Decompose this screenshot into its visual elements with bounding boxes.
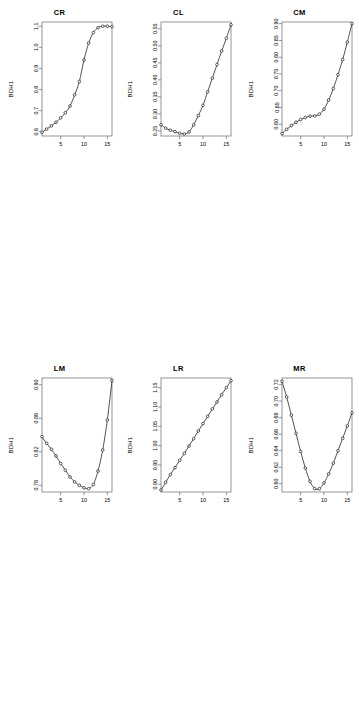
svg-text:0.60: 0.60: [274, 478, 280, 489]
svg-text:10: 10: [321, 497, 327, 503]
svg-text:0.35: 0.35: [153, 92, 159, 103]
svg-text:1.05: 1.05: [153, 421, 159, 432]
svg-text:0.75: 0.75: [274, 69, 280, 80]
plot-panel-r1c2: CL BDH1 0.250.300.350.400.450.500.555101…: [119, 0, 238, 178]
svg-text:0.66: 0.66: [274, 429, 280, 440]
svg-text:0.90: 0.90: [274, 18, 280, 29]
plot-panel-r1c1: CR BDH1 0.60.70.80.91.01.151015: [0, 0, 119, 178]
svg-text:0.70: 0.70: [274, 396, 280, 407]
svg-text:15: 15: [344, 141, 350, 147]
svg-text:10: 10: [200, 141, 206, 147]
svg-text:10: 10: [81, 141, 87, 147]
svg-text:0.64: 0.64: [274, 445, 280, 456]
plot-panel-r1c3: CM BDH1 0.600.650.700.750.800.850.905101…: [240, 0, 359, 178]
panel-row-1: CR BDH1 0.60.70.80.91.01.151015 CL BDH1 …: [0, 0, 359, 178]
svg-text:0.65: 0.65: [274, 102, 280, 113]
svg-text:1.10: 1.10: [153, 402, 159, 413]
figure-canvas: CR BDH1 0.60.70.80.91.01.151015 CL BDH1 …: [0, 0, 359, 713]
svg-text:0.68: 0.68: [274, 412, 280, 423]
svg-text:0.30: 0.30: [153, 109, 159, 120]
svg-text:10: 10: [321, 141, 327, 147]
plot-area: 0.60.70.80.91.01.151015: [0, 0, 119, 178]
svg-text:10: 10: [200, 497, 206, 503]
svg-text:15: 15: [104, 141, 110, 147]
svg-text:0.80: 0.80: [274, 52, 280, 63]
svg-text:5: 5: [178, 497, 181, 503]
svg-text:0.78: 0.78: [34, 480, 40, 491]
plot-area: 0.900.951.001.051.101.1551015: [119, 356, 238, 534]
svg-text:0.50: 0.50: [153, 41, 159, 52]
svg-text:0.72: 0.72: [274, 379, 280, 390]
svg-text:15: 15: [344, 497, 350, 503]
svg-text:0.62: 0.62: [274, 462, 280, 473]
svg-text:0.90: 0.90: [153, 479, 159, 490]
svg-text:0.95: 0.95: [153, 460, 159, 471]
svg-text:0.55: 0.55: [153, 24, 159, 35]
svg-text:0.90: 0.90: [34, 379, 40, 390]
svg-text:5: 5: [59, 141, 62, 147]
plot-panel-r2c3: MR BDH1 0.600.620.640.660.680.700.725101…: [240, 356, 359, 534]
svg-text:5: 5: [178, 141, 181, 147]
panel-row-2: LM BDH1 0.780.820.860.9051015 LR BDH1 0.…: [0, 356, 359, 534]
svg-text:0.9: 0.9: [34, 65, 40, 73]
svg-text:0.60: 0.60: [274, 119, 280, 130]
svg-text:1.00: 1.00: [153, 440, 159, 451]
plot-area: 0.250.300.350.400.450.500.5551015: [119, 0, 238, 178]
svg-text:5: 5: [299, 497, 302, 503]
svg-text:0.7: 0.7: [34, 107, 40, 115]
svg-text:0.70: 0.70: [274, 85, 280, 96]
svg-text:0.25: 0.25: [153, 126, 159, 137]
svg-text:15: 15: [104, 497, 110, 503]
svg-text:5: 5: [299, 141, 302, 147]
svg-text:0.85: 0.85: [274, 35, 280, 46]
svg-text:0.6: 0.6: [34, 128, 40, 136]
svg-text:15: 15: [223, 141, 229, 147]
svg-text:0.86: 0.86: [34, 413, 40, 424]
svg-text:0.40: 0.40: [153, 75, 159, 86]
svg-text:0.45: 0.45: [153, 58, 159, 68]
svg-text:1.15: 1.15: [153, 382, 159, 393]
plot-panel-r2c1: LM BDH1 0.780.820.860.9051015: [0, 356, 119, 534]
plot-area: 0.600.650.700.750.800.850.9051015: [240, 0, 359, 178]
plot-area: 0.600.620.640.660.680.700.7251015: [240, 356, 359, 534]
svg-text:1.0: 1.0: [34, 44, 40, 52]
plot-area: 0.780.820.860.9051015: [0, 356, 119, 534]
svg-text:0.8: 0.8: [34, 86, 40, 94]
svg-text:1.1: 1.1: [34, 22, 40, 30]
svg-text:0.82: 0.82: [34, 447, 40, 458]
svg-text:10: 10: [81, 497, 87, 503]
plot-panel-r2c2: LR BDH1 0.900.951.001.051.101.1551015: [119, 356, 238, 534]
svg-text:5: 5: [59, 497, 62, 503]
svg-text:15: 15: [223, 497, 229, 503]
